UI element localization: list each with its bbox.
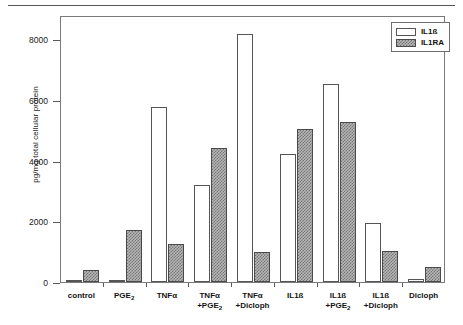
bar-il1ra-4 (254, 252, 270, 282)
bar-il1ra-7 (382, 251, 398, 282)
bar-il1b-8 (408, 279, 424, 282)
bar-il1ra-2 (168, 244, 184, 282)
x-axis-label-2: TNFα (146, 291, 189, 301)
x-axis-label-5: IL1ß (274, 291, 317, 301)
legend-label-il1b: IL1ß (421, 27, 437, 36)
x-axis-label-3: TNFα+PGE2 (188, 291, 231, 311)
x-axis-label-1: PGE2 (103, 291, 146, 301)
x-tick-mark (359, 283, 360, 287)
legend-swatch-hatched-icon (396, 39, 416, 47)
y-tick-mark (53, 162, 60, 163)
bar-il1b-5 (280, 154, 296, 282)
y-tick-mark (53, 101, 60, 102)
x-axis-label-7: IL1ß+Dicloph (359, 291, 402, 311)
bar-il1ra-6 (340, 122, 356, 283)
y-tick-mark (53, 40, 60, 41)
x-axis-label-4: TNFα+Dicloph (231, 291, 274, 311)
bar-il1b-6 (323, 84, 339, 282)
y-tick-mark (53, 283, 60, 284)
x-tick-mark (317, 283, 318, 287)
bar-il1b-4 (237, 34, 253, 282)
bar-il1ra-1 (126, 230, 142, 282)
bar-il1ra-5 (297, 129, 313, 282)
bar-il1b-3 (194, 185, 210, 282)
legend-item-il1b[interactable]: IL1ß (396, 26, 444, 37)
bar-il1b-2 (151, 107, 167, 282)
legend[interactable]: IL1ß IL1RA (391, 22, 450, 52)
legend-item-il1ra[interactable]: IL1RA (396, 37, 444, 48)
bar-il1ra-3 (211, 148, 227, 282)
y-tick-label: 6000 (10, 97, 48, 106)
y-tick-label: 4000 (10, 158, 48, 167)
y-tick-mark (53, 222, 60, 223)
legend-label-il1ra: IL1RA (421, 38, 444, 47)
x-axis-label-6: IL1ß+PGE2 (317, 291, 360, 311)
bar-il1b-0 (66, 280, 82, 282)
bar-il1b-7 (365, 223, 381, 282)
bar-il1ra-0 (83, 270, 99, 282)
x-tick-mark (103, 283, 104, 287)
y-tick-label: 0 (10, 279, 48, 288)
top-rule-divider (8, 5, 455, 6)
y-tick-label: 2000 (10, 218, 48, 227)
bars-container (61, 17, 444, 282)
bar-il1b-1 (109, 280, 125, 282)
x-tick-mark (402, 283, 403, 287)
figure: pg/mg total cellular protein 02000400060… (0, 0, 463, 325)
y-tick-label: 8000 (10, 36, 48, 45)
plot-area (60, 16, 445, 283)
x-tick-mark (146, 283, 147, 287)
y-axis-title: pg/mg total cellular protein (31, 45, 40, 225)
x-tick-mark (188, 283, 189, 287)
bar-il1ra-8 (425, 267, 441, 282)
x-axis-label-0: control (60, 291, 103, 301)
legend-swatch-open-icon (396, 28, 416, 36)
x-axis-label-8: Dicloph (402, 291, 445, 301)
x-tick-mark (231, 283, 232, 287)
x-tick-mark (274, 283, 275, 287)
